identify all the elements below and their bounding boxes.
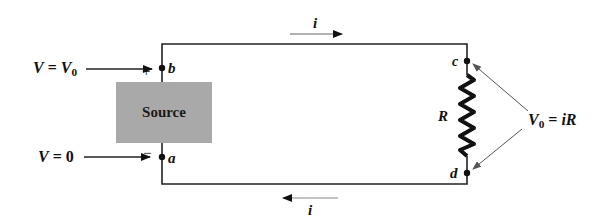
label-var: V: [38, 148, 49, 165]
resistor-label: R: [438, 109, 448, 124]
node-label-a: a: [168, 151, 176, 166]
source-label: Source: [116, 82, 212, 143]
label-sub: 0: [71, 66, 77, 78]
circuit-drawing: [0, 0, 612, 221]
label-var: V: [33, 59, 44, 76]
label-v-equals-v0: V = V0: [33, 60, 77, 79]
label-v0-equals-ir: V0 = iR: [528, 112, 577, 131]
minus-sign: −: [143, 146, 151, 161]
label-val: V: [61, 59, 72, 76]
node-label-d: d: [450, 166, 458, 181]
label-eq: =: [548, 111, 557, 128]
label-var: V: [528, 111, 539, 128]
node-label-c: c: [452, 55, 458, 69]
label-val: 0: [66, 148, 74, 165]
current-label-top: i: [313, 16, 317, 31]
resistor-icon: [460, 75, 474, 156]
label-eq: =: [53, 148, 62, 165]
arrow-to-c: [473, 64, 528, 111]
label-sub: 0: [539, 118, 545, 130]
label-eq: =: [48, 59, 57, 76]
circuit-diagram: Source V = V0 V = 0 + − b a c d R V0 = i…: [0, 0, 612, 221]
node-b: [159, 65, 165, 71]
arrow-to-d: [473, 129, 522, 169]
node-c: [464, 58, 470, 64]
node-d: [464, 170, 470, 176]
label-v-equals-0: V = 0: [38, 149, 74, 165]
current-label-bottom: i: [308, 203, 312, 218]
plus-sign: +: [142, 64, 150, 79]
node-label-b: b: [168, 61, 176, 76]
label-expr: iR: [561, 111, 576, 128]
node-a: [159, 154, 165, 160]
